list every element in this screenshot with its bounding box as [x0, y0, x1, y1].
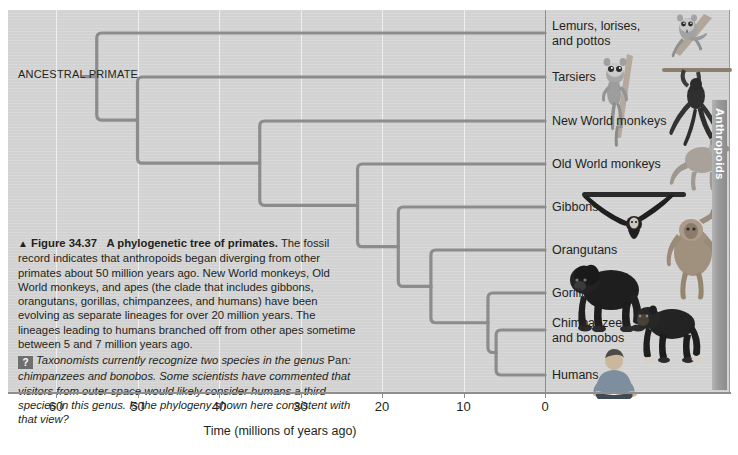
anthropoids-clade-bracket: Anthropoids: [712, 100, 727, 390]
branch-n-anthropoid-to-n-catarrhine: [260, 163, 358, 205]
branch-n-apes-to-n-greatapes: [398, 247, 431, 287]
branch-n-haplorhini-to-n-anthropoid: [138, 120, 260, 163]
tick-40: [219, 392, 220, 398]
question-text-part1: Taxonomists currently recognize two spec…: [36, 354, 328, 366]
tip-label-old-world: Old World monkeys: [552, 157, 661, 172]
figure-caption: ▲ Figure 34.37 A phylogenetic tree of pr…: [18, 236, 358, 427]
branch-n-haplorhini-to-tarsiers: [138, 77, 546, 120]
tip-label-lemurs: Lemurs, lorises, and pottos: [552, 19, 640, 48]
anthropoids-clade-label: Anthropoids: [714, 108, 726, 180]
branch-n-panhomo-to-chimpanzees: [496, 330, 545, 353]
question-badge-icon: ?: [18, 356, 33, 369]
tick-label-30: 30: [293, 399, 307, 414]
branch-n-greatapes-to-orangutans: [431, 250, 545, 286]
ancestral-primate-label: ANCESTRAL PRIMATE: [18, 68, 138, 81]
branch-n-root-to-n-haplorhini: [97, 77, 138, 121]
tick-label-10: 10: [456, 399, 470, 414]
caption-triangle-icon: ▲: [18, 238, 28, 249]
branch-n-catarrhine-to-old-world: [358, 164, 545, 205]
time-axis-line: [8, 392, 731, 394]
figure-question-block: ?Taxonomists currently recognize two spe…: [18, 353, 358, 426]
branch-n-greatapes-to-n-african: [431, 286, 488, 322]
tip-label-gibbons: Gibbons: [552, 200, 599, 215]
tick-label-50: 50: [130, 399, 144, 414]
tick-10: [464, 392, 465, 398]
branch-n-root-to-lemurs: [97, 33, 545, 77]
tick-20: [382, 392, 383, 398]
tick-0: [545, 392, 546, 398]
tip-label-orangutans: Orangutans: [552, 243, 617, 258]
tip-label-gorillas: Gorillas: [552, 286, 594, 301]
tick-label-0: 0: [541, 399, 548, 414]
tick-30: [301, 392, 302, 398]
tick-60: [56, 392, 57, 398]
tick-label-20: 20: [375, 399, 389, 414]
figure-title: A phylogenetic tree of primates.: [106, 237, 278, 249]
tick-label-60: 60: [49, 399, 63, 414]
tick-50: [138, 392, 139, 398]
branch-n-anthropoid-to-new-world: [260, 121, 545, 163]
branch-n-catarrhine-to-n-apes: [358, 205, 399, 246]
tip-label-chimpanzees: Chimpanzees and bonobos: [552, 316, 628, 345]
tick-label-40: 40: [212, 399, 226, 414]
branch-n-panhomo-to-humans: [496, 353, 545, 376]
tip-label-tarsiers: Tarsiers: [552, 70, 596, 85]
phylogenetic-tree-figure: ANCESTRAL PRIMATE Lemurs, lorises, and p…: [0, 0, 738, 455]
time-axis-title: Time (millions of years ago): [0, 424, 560, 438]
question-genus-name: Pan: [328, 354, 348, 366]
figure-number: Figure 34.37: [31, 237, 97, 249]
figure-body-text: The fossil record indicates that anthrop…: [18, 237, 356, 350]
tip-label-new-world: New World monkeys: [552, 114, 666, 129]
tip-label-humans: Humans: [552, 368, 599, 383]
branch-n-african-to-gorillas: [488, 293, 545, 323]
branch-n-apes-to-gibbons: [398, 207, 545, 247]
